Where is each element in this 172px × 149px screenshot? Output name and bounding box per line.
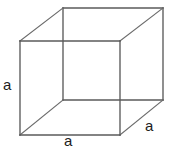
depth-edge-bottom-left [20,100,63,135]
edge-length-label-right: a [145,118,153,133]
cube-depth-edges [20,8,163,135]
cube-front-face [20,41,120,135]
depth-edge-top-right [120,8,163,41]
depth-edge-bottom-right [120,100,163,135]
cube-figure: a a a [0,0,172,149]
depth-edge-top-left [20,8,63,41]
cube-back-face [63,8,163,100]
edge-length-label-bottom: a [64,133,72,148]
edge-length-label-left: a [3,77,11,92]
